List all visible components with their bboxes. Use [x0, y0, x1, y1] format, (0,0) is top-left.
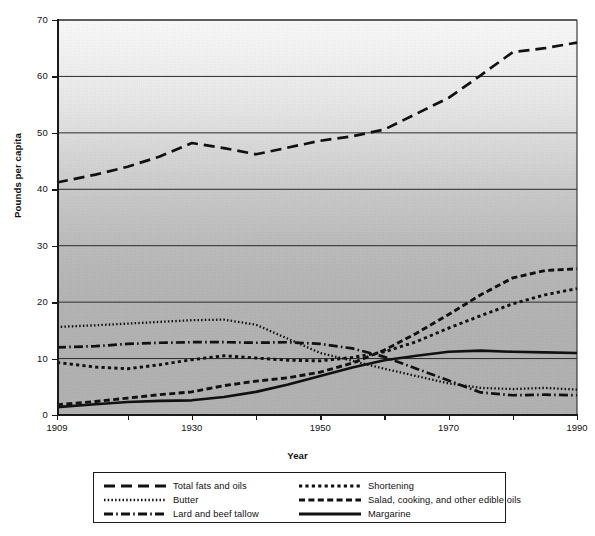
legend-label: Total fats and oils: [173, 481, 247, 491]
x-tick-mark-minor: [256, 415, 257, 420]
legend-item: Butter: [104, 493, 294, 507]
legend: Total fats and oilsButterLard and beef t…: [93, 472, 506, 523]
x-tick-mark: [320, 415, 321, 420]
x-tick-label: 1950: [290, 422, 350, 433]
x-tick-label: 1990: [547, 422, 595, 433]
legend-label: Margarine: [368, 509, 411, 519]
legend-item: Shortening: [299, 479, 504, 493]
x-tick-mark: [449, 415, 450, 420]
legend-label: Lard and beef tallow: [173, 509, 259, 519]
y-tick-mark: [52, 359, 57, 360]
x-tick-mark-minor: [128, 415, 129, 420]
x-tick-mark: [192, 415, 193, 420]
x-tick-mark-minor: [384, 415, 385, 420]
x-tick-label: 1970: [419, 422, 479, 433]
data-series-layer: [57, 20, 577, 415]
legend-swatch-short-dot: [299, 480, 361, 492]
legend-label: Butter: [173, 495, 198, 505]
y-tick-mark: [52, 76, 57, 77]
y-tick-mark: [52, 302, 57, 303]
legend-swatch-long-dash: [104, 480, 166, 492]
x-tick-mark: [577, 415, 578, 420]
x-tick-label: 1930: [162, 422, 222, 433]
y-tick-mark: [52, 246, 57, 247]
legend-swatch-solid: [299, 508, 361, 520]
legend-label: Salad, cooking, and other edible oils: [368, 495, 521, 505]
legend-label: Shortening: [368, 481, 414, 491]
legend-swatch-dash-dot: [104, 508, 166, 520]
legend-item: Salad, cooking, and other edible oils: [299, 493, 504, 507]
legend-swatch-fine-dot: [104, 494, 166, 506]
y-tick-label: 10: [8, 353, 48, 364]
x-tick-mark-minor: [513, 415, 514, 420]
series-line-0: [57, 43, 577, 183]
y-tick-mark: [52, 133, 57, 134]
y-tick-label: 70: [8, 14, 48, 25]
series-line-1: [57, 320, 577, 390]
legend-item: Lard and beef tallow: [104, 507, 294, 521]
y-tick-mark: [52, 189, 57, 190]
legend-swatch-medium-dash: [299, 494, 361, 506]
legend-item: Margarine: [299, 507, 504, 521]
y-tick-label: 20: [8, 296, 48, 307]
y-axis-line: [57, 19, 59, 416]
x-axis-title: Year: [0, 450, 595, 461]
x-tick-label: 1909: [27, 422, 87, 433]
chart-root: 010203040506070 19091930195019701990 Pou…: [0, 0, 595, 536]
legend-item: Total fats and oils: [104, 479, 294, 493]
x-axis-line: [57, 414, 578, 416]
plot-area: [57, 20, 577, 415]
x-tick-mark: [57, 415, 58, 420]
y-tick-mark: [52, 20, 57, 21]
y-axis-title: Pounds per capita: [12, 106, 23, 246]
y-tick-label: 60: [8, 70, 48, 81]
series-line-4: [57, 269, 577, 405]
y-tick-label: 0: [8, 409, 48, 420]
series-line-3: [57, 289, 577, 369]
